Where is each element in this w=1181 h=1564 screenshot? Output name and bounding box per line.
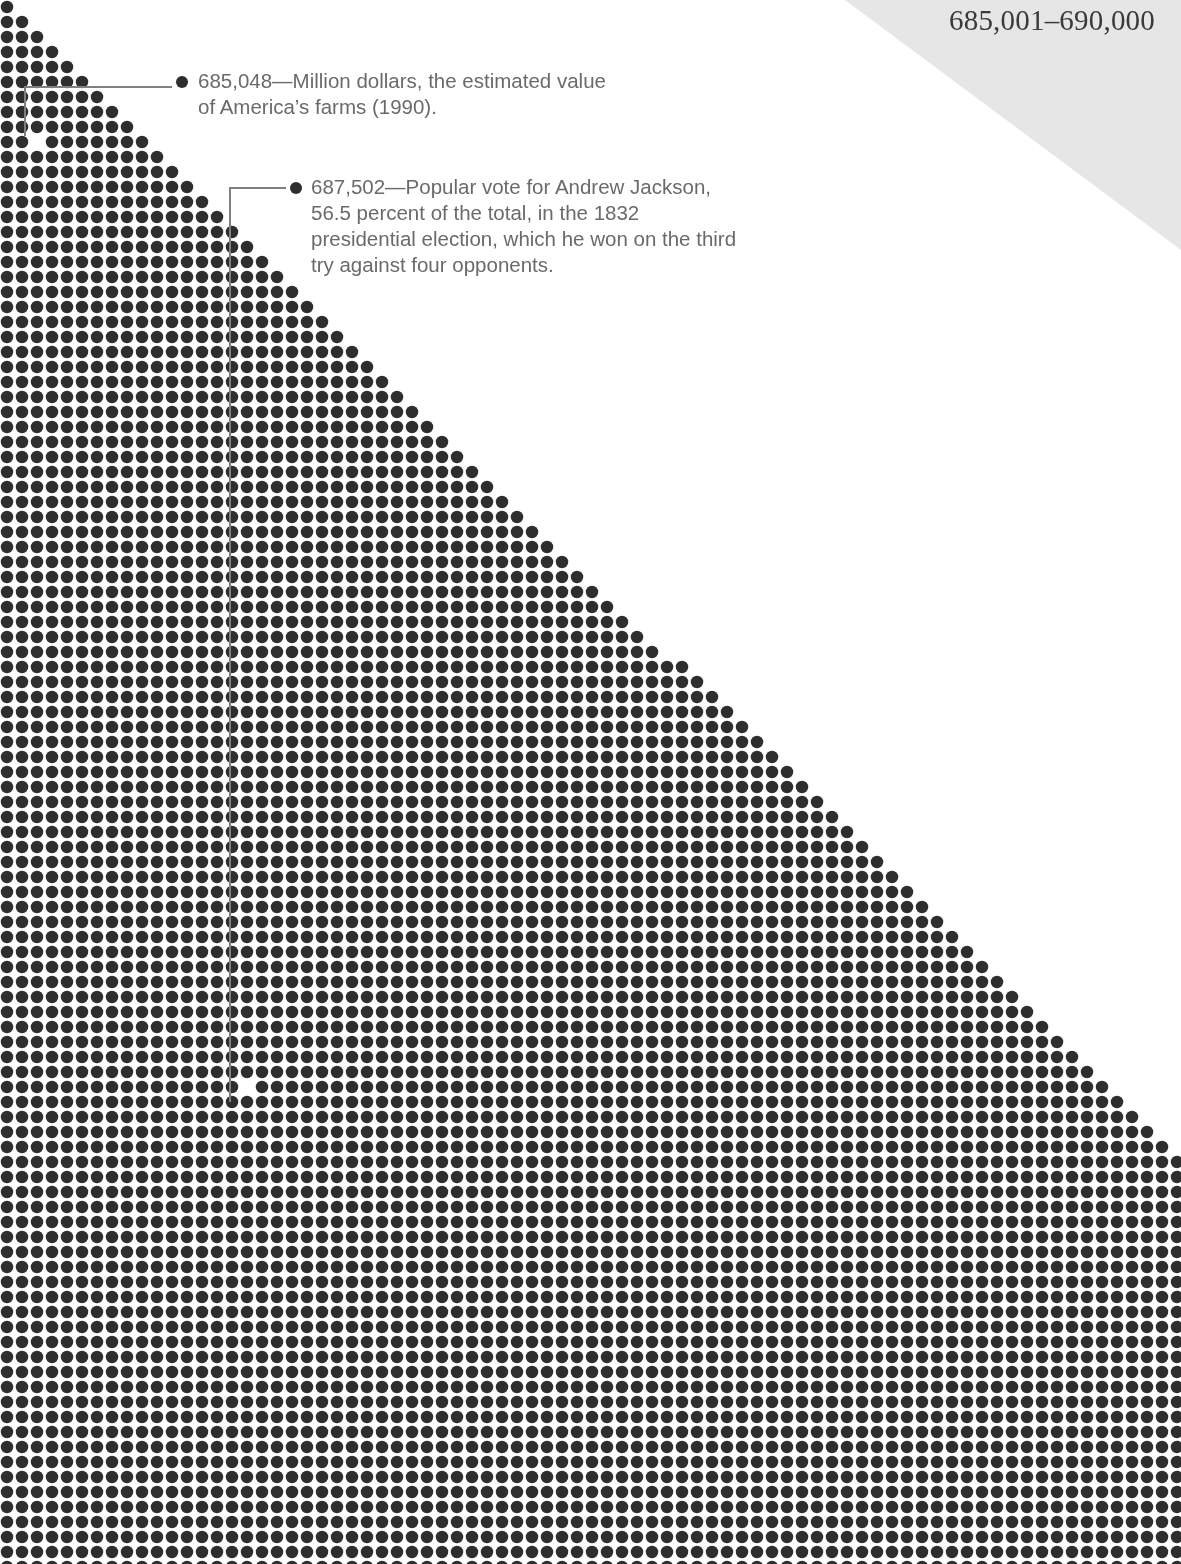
range-title: 685,001–690,000 [949,4,1155,37]
annotation-687502: 687,502—Popular vote for Andrew Jackson,… [311,174,736,278]
leader-line-horizontal-2 [229,187,286,189]
bullet-icon [176,76,188,88]
bullet-icon [290,182,302,194]
annotation-685048: 685,048—Million dollars, the estimated v… [198,68,606,120]
annotation-line: try against four opponents. [311,252,736,278]
leader-line-horizontal-1 [24,86,172,88]
annotation-line: 56.5 percent of the total, in the 1832 [311,200,736,226]
annotation-line: 685,048—Million dollars, the estimated v… [198,68,606,94]
annotation-line: presidential election, which he won on t… [311,226,736,252]
leader-line-vertical-1 [24,86,26,136]
annotation-line: 687,502—Popular vote for Andrew Jackson, [311,174,736,200]
leader-line-vertical-2 [229,187,231,1102]
annotation-line: of America’s farms (1990). [198,94,606,120]
